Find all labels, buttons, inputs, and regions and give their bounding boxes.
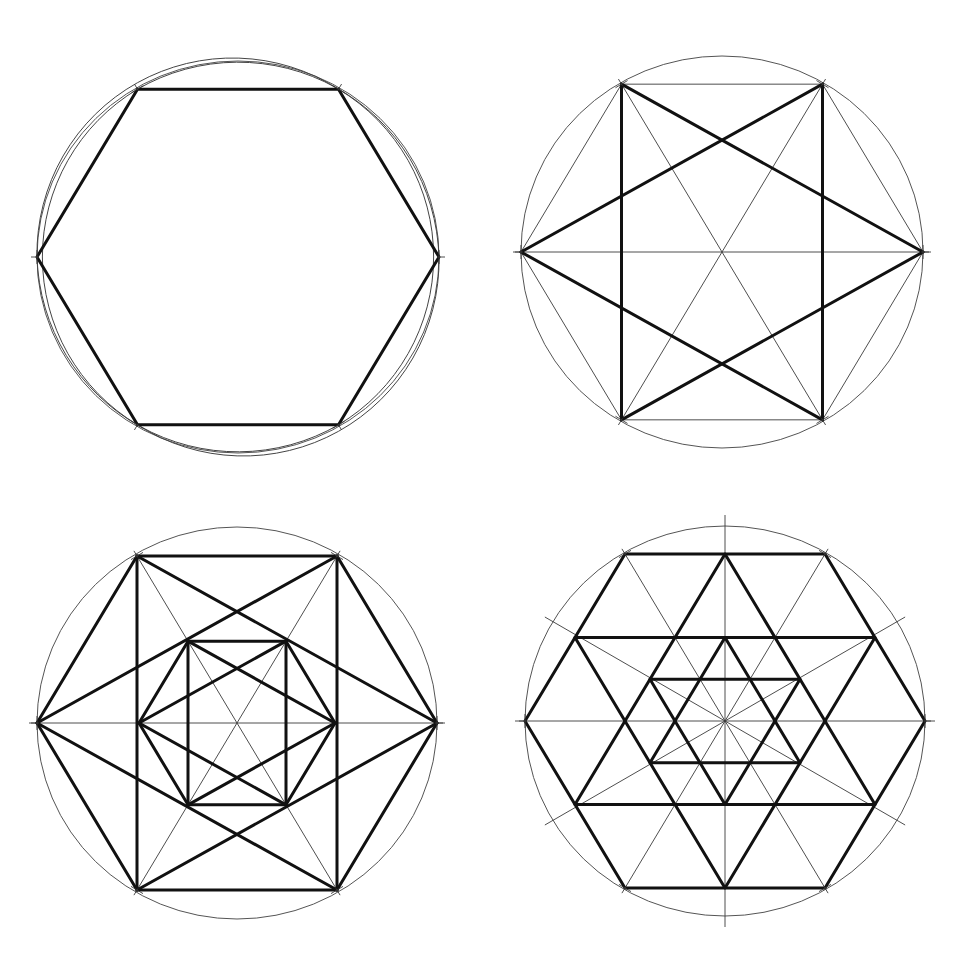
hexagon-edge <box>823 84 924 252</box>
rosette-petal-arc <box>42 89 137 425</box>
hexagon-edge <box>521 84 622 252</box>
figure-hexagon-rosette <box>31 58 445 456</box>
rosette-petal-arc <box>138 62 440 257</box>
figure-nested-hexagons <box>29 527 445 919</box>
outer-hexagon <box>37 89 439 425</box>
star-line <box>521 84 823 252</box>
rosette-petal-arc <box>37 257 339 452</box>
drawing-canvas <box>0 0 962 958</box>
star-line <box>622 84 924 252</box>
hexagon-edge <box>823 252 924 420</box>
star-line <box>521 252 823 420</box>
figure-hexagram-rectangle <box>513 56 931 448</box>
star-line <box>622 252 924 420</box>
hexagon-edge <box>521 252 622 420</box>
rosette-petal-arc <box>339 89 434 425</box>
geometry-plate <box>0 0 962 958</box>
figure-nested-hexagrams <box>515 515 935 927</box>
